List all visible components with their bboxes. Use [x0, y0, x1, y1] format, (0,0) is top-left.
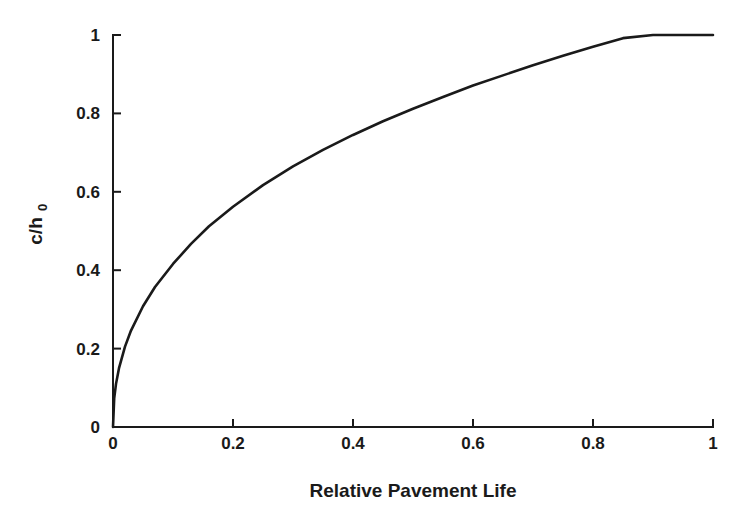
y-tick-label: 0.6 — [76, 183, 100, 202]
chart-plot-area: 00.20.40.60.81 00.20.40.60.81 Relative P… — [0, 0, 752, 526]
y-axis-title: c/h — [25, 217, 46, 244]
y-tick-label: 0.4 — [76, 261, 100, 280]
y-tick-label: 0 — [91, 418, 100, 437]
y-tick-label: 0.8 — [76, 104, 100, 123]
x-tick-label: 0.4 — [341, 434, 365, 453]
x-tick-label: 0.6 — [461, 434, 485, 453]
x-axis-title: Relative Pavement Life — [310, 480, 517, 501]
x-tick-label: 0.8 — [581, 434, 605, 453]
y-tick-label: 1 — [91, 26, 100, 45]
x-tick-label: 0.2 — [221, 434, 245, 453]
x-tick-label: 1 — [708, 434, 717, 453]
x-tick-label: 0 — [108, 434, 117, 453]
y-tick-label: 0.2 — [76, 340, 100, 359]
y-axis-title-subscript: 0 — [35, 204, 50, 211]
chart-figure: 00.20.40.60.81 00.20.40.60.81 Relative P… — [0, 0, 752, 526]
